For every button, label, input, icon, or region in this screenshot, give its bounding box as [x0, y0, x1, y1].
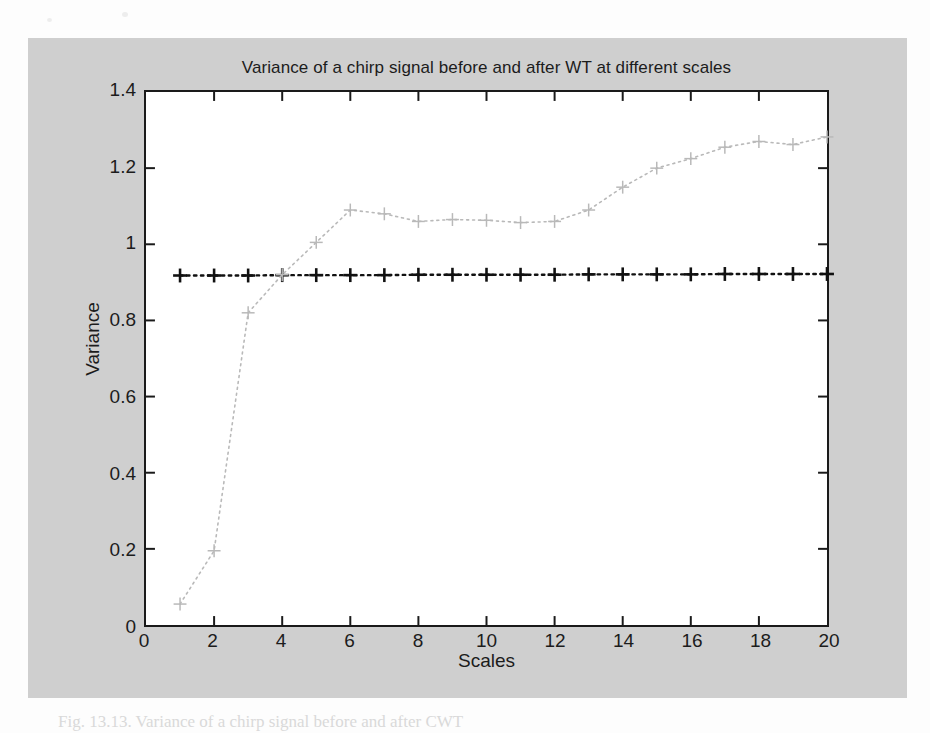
scanned-page: Variance of a chirp signal before and af… — [0, 0, 930, 733]
y-tick-label: 0 — [125, 616, 136, 638]
data-point-marker — [309, 268, 323, 282]
data-point-marker — [343, 268, 357, 282]
x-tick-label: 14 — [613, 630, 634, 652]
data-point-marker — [752, 267, 766, 281]
data-point-marker — [752, 135, 765, 148]
data-point-marker — [786, 267, 800, 281]
data-point-marker — [582, 267, 596, 281]
data-point-marker — [208, 544, 221, 557]
y-tick-label: 0.6 — [110, 386, 136, 408]
data-point-marker — [616, 267, 630, 281]
x-tick-label: 12 — [544, 630, 565, 652]
plot-svg — [146, 92, 827, 625]
figure-canvas: Variance of a chirp signal before and af… — [28, 38, 907, 698]
data-point-marker — [616, 181, 629, 194]
data-point-marker — [276, 268, 289, 281]
x-axis-label: Scales — [144, 650, 829, 672]
data-point-marker — [412, 215, 425, 228]
x-tick-label: 20 — [818, 630, 839, 652]
data-point-marker — [514, 268, 528, 282]
data-point-marker — [650, 267, 664, 281]
data-point-marker — [480, 268, 494, 282]
data-point-marker — [684, 152, 697, 165]
x-tick-label: 4 — [276, 630, 287, 652]
x-tick-label: 2 — [207, 630, 218, 652]
data-point-marker — [446, 213, 459, 226]
data-point-marker — [582, 204, 595, 217]
x-tick-label: 10 — [476, 630, 497, 652]
data-point-marker — [378, 207, 391, 220]
data-point-marker — [786, 138, 799, 151]
scan-speckle — [47, 18, 52, 22]
series-1 — [173, 267, 834, 282]
y-tick-label: 0.8 — [110, 309, 136, 331]
series-2 — [174, 130, 834, 610]
data-point-marker — [445, 268, 459, 282]
data-point-marker — [718, 267, 732, 281]
x-tick-label: 8 — [413, 630, 424, 652]
data-point-marker — [650, 162, 663, 175]
data-point-marker — [514, 216, 527, 229]
chart-title: Variance of a chirp signal before and af… — [144, 58, 829, 78]
series-line — [180, 137, 827, 604]
data-point-marker — [174, 598, 187, 611]
x-tick-label: 6 — [344, 630, 355, 652]
y-tick-label: 1.2 — [110, 156, 136, 178]
data-point-marker — [241, 269, 255, 283]
y-tick-label: 1 — [125, 232, 136, 254]
data-point-marker — [684, 267, 698, 281]
scan-speckle — [122, 12, 128, 17]
y-tick-label: 0.4 — [110, 463, 136, 485]
data-point-marker — [207, 269, 221, 283]
x-tick-label: 0 — [139, 630, 150, 652]
data-point-marker — [820, 267, 834, 281]
data-point-marker — [548, 268, 562, 282]
data-point-marker — [718, 141, 731, 154]
figure-caption: Fig. 13.13. Variance of a chirp signal b… — [58, 712, 463, 732]
data-point-marker — [411, 268, 425, 282]
y-tick-label: 1.4 — [110, 79, 136, 101]
plot-area — [144, 90, 829, 627]
data-point-marker — [377, 268, 391, 282]
data-point-marker — [480, 214, 493, 227]
data-point-marker — [173, 269, 187, 283]
x-tick-label: 18 — [750, 630, 771, 652]
y-axis-tick-labels: 00.20.40.60.811.21.4 — [68, 90, 136, 627]
y-tick-label: 0.2 — [110, 539, 136, 561]
data-point-marker — [821, 130, 834, 143]
x-tick-label: 16 — [681, 630, 702, 652]
data-point-marker — [548, 215, 561, 228]
